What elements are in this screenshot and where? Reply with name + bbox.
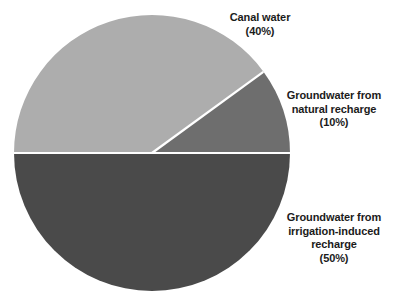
pie-label-canal-water: Canal water (40%) [196, 11, 324, 38]
pie-label-natural-recharge: Groundwater from natural recharge (10%) [272, 89, 396, 130]
pie-label-irrigation-recharge: Groundwater from irrigation-induced rech… [272, 211, 396, 265]
